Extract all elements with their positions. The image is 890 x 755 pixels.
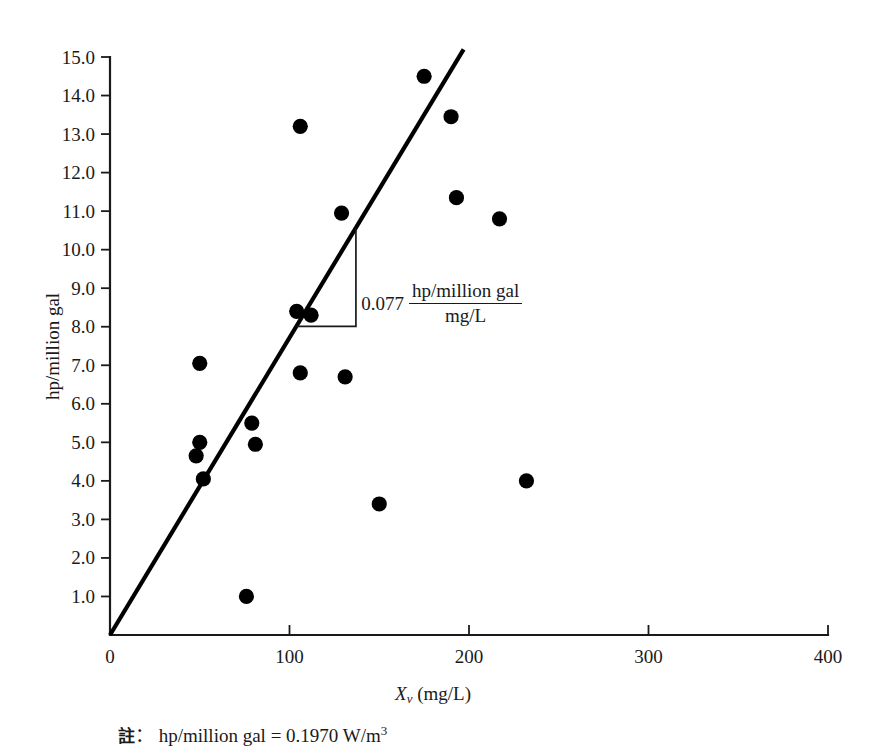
footnote-marker: 註 <box>118 726 135 746</box>
x-axis-tick-labels: 0100200300400 <box>105 646 842 667</box>
data-point <box>248 437 263 452</box>
scatter-plot-svg: 1.02.03.04.05.06.07.08.09.010.011.012.01… <box>0 0 890 755</box>
x-axis-ticks <box>290 625 829 635</box>
data-point <box>293 119 308 134</box>
slope-annotation: 0.077 hp/million gal mg/L <box>361 280 522 327</box>
x-tick-label: 0 <box>105 646 115 667</box>
slope-units-numerator: hp/million gal <box>409 280 522 303</box>
data-point <box>417 69 432 84</box>
y-axis-ticks <box>101 57 110 596</box>
footnote-separator: ： <box>135 725 154 746</box>
x-axis-variable: X <box>395 683 407 704</box>
data-point <box>372 496 387 511</box>
y-tick-label: 15.0 <box>62 47 95 68</box>
data-point <box>189 448 204 463</box>
y-tick-label: 7.0 <box>71 355 95 376</box>
data-point <box>338 369 353 384</box>
footnote-exponent: 3 <box>381 723 388 738</box>
y-axis-title: hp/million gal <box>42 292 64 399</box>
data-point <box>239 589 254 604</box>
x-tick-label: 100 <box>275 646 304 667</box>
data-point <box>519 473 534 488</box>
y-tick-label: 13.0 <box>62 124 95 145</box>
data-point <box>244 415 259 430</box>
y-tick-label: 5.0 <box>71 432 95 453</box>
y-tick-label: 6.0 <box>71 393 95 414</box>
x-tick-label: 200 <box>455 646 484 667</box>
data-point <box>293 365 308 380</box>
y-tick-label: 9.0 <box>71 278 95 299</box>
trend-line <box>110 49 464 635</box>
data-point <box>196 471 211 486</box>
data-point <box>192 435 207 450</box>
footnote: 註： hp/million gal = 0.1970 W/m3 <box>118 720 387 747</box>
data-point <box>192 356 207 371</box>
y-tick-label: 10.0 <box>62 239 95 260</box>
x-tick-label: 400 <box>814 646 843 667</box>
slope-units-denominator: mg/L <box>409 303 522 327</box>
data-point <box>443 109 458 124</box>
data-point <box>492 211 507 226</box>
x-tick-label: 300 <box>634 646 663 667</box>
y-tick-label: 12.0 <box>62 162 95 183</box>
data-point <box>334 205 349 220</box>
y-tick-label: 8.0 <box>71 316 95 337</box>
slope-units-fraction: hp/million gal mg/L <box>409 280 522 327</box>
y-tick-label: 1.0 <box>71 586 95 607</box>
y-axis-tick-labels: 1.02.03.04.05.06.07.08.09.010.011.012.01… <box>62 47 95 607</box>
y-tick-label: 3.0 <box>71 509 95 530</box>
slope-value: 0.077 <box>361 293 404 315</box>
data-points-group <box>189 69 534 604</box>
y-tick-label: 11.0 <box>62 201 95 222</box>
y-tick-label: 14.0 <box>62 85 95 106</box>
data-point <box>449 190 464 205</box>
y-tick-label: 4.0 <box>71 470 95 491</box>
x-axis-title: Xv (mg/L) <box>395 683 471 707</box>
x-axis-units: (mg/L) <box>412 683 471 704</box>
footnote-text: hp/million gal = 0.1970 W/m <box>159 725 381 746</box>
data-point <box>303 308 318 323</box>
data-point <box>289 304 304 319</box>
figure-container: 1.02.03.04.05.06.07.08.09.010.011.012.01… <box>0 0 890 755</box>
y-tick-label: 2.0 <box>71 547 95 568</box>
